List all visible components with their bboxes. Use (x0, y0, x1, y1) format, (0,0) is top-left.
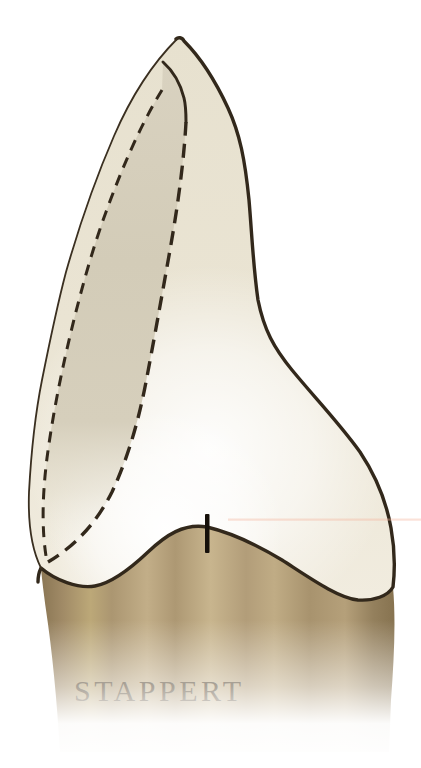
tooth-diagram-canvas: STAPPERT (0, 0, 421, 768)
bottom-fade (0, 620, 421, 768)
tooth-preparation-figure: STAPPERT (0, 0, 421, 768)
cervical-tick-mark (205, 514, 210, 553)
scan-artifact-line (228, 519, 421, 521)
